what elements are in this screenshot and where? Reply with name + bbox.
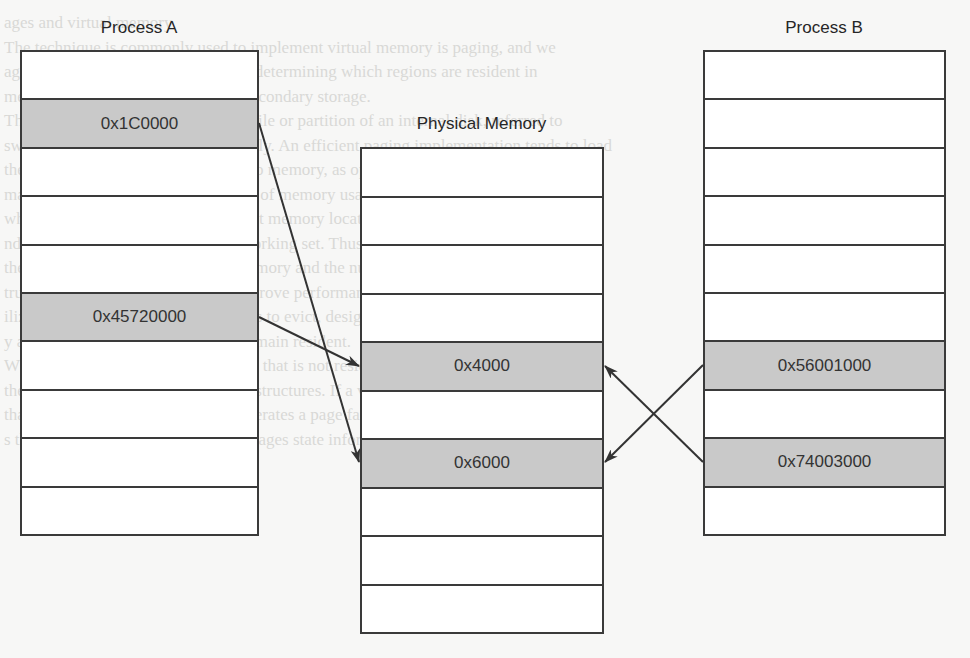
memory-page bbox=[362, 196, 602, 245]
memory-page bbox=[22, 389, 257, 437]
process-a-title: Process A bbox=[20, 18, 258, 38]
memory-page bbox=[22, 244, 257, 292]
arrow-a-1c0000-to-6000 bbox=[259, 123, 359, 462]
arrow-a-45720000-to-4000 bbox=[259, 317, 359, 366]
memory-page bbox=[705, 147, 944, 195]
memory-page-mapped: 0x45720000 bbox=[22, 292, 257, 340]
memory-page bbox=[705, 52, 944, 98]
arrow-b-56001000-to-6000 bbox=[605, 365, 703, 462]
memory-page bbox=[22, 52, 257, 98]
memory-page bbox=[705, 486, 944, 534]
memory-page bbox=[362, 584, 602, 633]
physical-memory-title: Physical Memory bbox=[360, 114, 603, 134]
memory-page-mapped: 0x4000 bbox=[362, 341, 602, 390]
memory-page bbox=[22, 486, 257, 534]
memory-page-mapped: 0x1C0000 bbox=[22, 98, 257, 146]
physical-memory-column: 0x40000x6000 bbox=[360, 147, 604, 634]
memory-page bbox=[362, 244, 602, 293]
memory-page bbox=[22, 437, 257, 485]
memory-page bbox=[705, 389, 944, 437]
memory-page bbox=[22, 340, 257, 388]
arrow-b-74003000-to-4000 bbox=[605, 366, 703, 462]
memory-page bbox=[362, 149, 602, 196]
memory-page bbox=[705, 98, 944, 146]
process-a-memory-column: 0x1C00000x45720000 bbox=[20, 50, 259, 536]
memory-page bbox=[22, 147, 257, 195]
memory-page bbox=[22, 195, 257, 243]
memory-page-mapped: 0x6000 bbox=[362, 438, 602, 487]
process-b-title: Process B bbox=[703, 18, 945, 38]
process-b-memory-column: 0x560010000x74003000 bbox=[703, 50, 946, 536]
memory-page-mapped: 0x74003000 bbox=[705, 437, 944, 485]
memory-page bbox=[705, 244, 944, 292]
memory-page bbox=[362, 293, 602, 342]
memory-page bbox=[362, 535, 602, 584]
memory-page bbox=[705, 292, 944, 340]
memory-page bbox=[362, 390, 602, 439]
memory-page bbox=[705, 195, 944, 243]
memory-page-mapped: 0x56001000 bbox=[705, 340, 944, 388]
memory-page bbox=[362, 487, 602, 536]
